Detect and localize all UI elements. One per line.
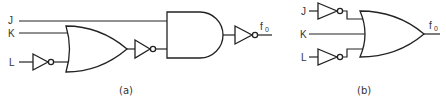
or-gate-icon (360, 11, 424, 57)
not-gate-l-icon (33, 54, 48, 70)
output-label: f (260, 21, 263, 32)
caption-b: (b) (357, 85, 371, 96)
logic-diagram: J K L f 0 (a) J K (0, 0, 446, 100)
input-label-k: K (300, 29, 307, 40)
caption-a: (a) (119, 85, 133, 96)
inversion-bubble-icon (150, 46, 155, 51)
inversion-bubble-icon (48, 59, 53, 64)
or-gate-icon (66, 26, 127, 72)
not-gate-out-icon (235, 26, 252, 44)
inversion-bubble-icon (337, 8, 342, 13)
output-label: f (429, 20, 432, 31)
output-subscript: 0 (265, 26, 269, 33)
inversion-bubble-icon (252, 32, 257, 37)
not-gate-l-icon (318, 49, 337, 65)
input-label-j: J (301, 6, 306, 17)
input-label-l: L (9, 57, 15, 68)
and-gate-icon (167, 12, 223, 58)
not-gate-or-icon (135, 40, 150, 58)
input-label-k: K (8, 28, 15, 39)
input-label-l: L (301, 52, 307, 63)
input-label-j: J (8, 15, 13, 26)
output-subscript: 0 (434, 25, 438, 32)
circuit-a: J K L f 0 (a) (8, 12, 272, 96)
not-gate-j-icon (318, 3, 337, 19)
circuit-b: J K L f 0 (b) (300, 3, 440, 96)
inversion-bubble-icon (337, 54, 342, 59)
